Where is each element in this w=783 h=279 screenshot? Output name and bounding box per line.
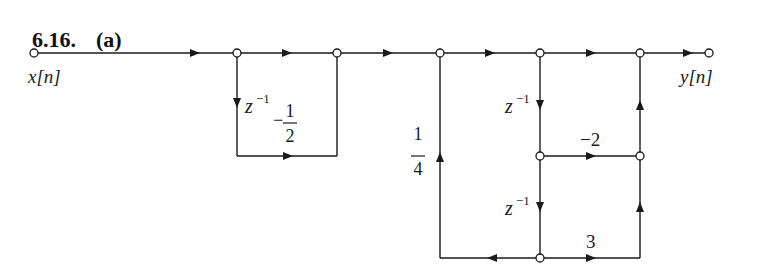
problem-number: 6.16.: [32, 27, 76, 52]
output-node: [705, 49, 713, 57]
node: [436, 49, 444, 57]
arrow-up-icon: [436, 152, 444, 162]
node: [536, 254, 544, 262]
arrow-down-icon: [536, 202, 544, 212]
delay-symbol: z: [504, 197, 513, 219]
arrow-right-icon: [485, 49, 495, 57]
third-delay-label: z −1: [504, 193, 530, 219]
first-loop-gain: − 1 2: [273, 101, 297, 146]
feedback-gain: 1 4: [411, 124, 425, 179]
arrow-up-icon: [636, 100, 644, 110]
input-label: x[n]: [27, 66, 61, 87]
input-node: [30, 49, 38, 57]
arrow-down-icon: [233, 98, 241, 108]
gain-sign: −: [273, 110, 283, 130]
output-label: y[n]: [678, 66, 713, 87]
gain-numerator: 1: [286, 101, 295, 121]
arrow-down-icon: [536, 100, 544, 110]
gain-denominator: 2: [286, 126, 295, 146]
arrow-left-icon: [487, 254, 497, 262]
arrow-right-icon: [586, 152, 596, 160]
delay-exponent: −1: [256, 91, 270, 106]
delay-exponent: −1: [516, 91, 530, 106]
arrow-right-icon: [190, 49, 200, 57]
arrow-right-icon: [586, 49, 596, 57]
node: [233, 49, 241, 57]
delay-symbol: z: [244, 95, 253, 117]
signal-flow-diagram: 6.16. (a): [0, 0, 783, 279]
first-delay-label: z −1: [244, 91, 270, 117]
node: [536, 152, 544, 160]
arrow-right-icon: [683, 49, 693, 57]
arrow-up-icon: [636, 202, 644, 212]
node: [333, 49, 341, 57]
node: [636, 152, 644, 160]
arrow-right-icon: [282, 49, 292, 57]
gain-denominator: 4: [414, 159, 423, 179]
arrow-right-icon: [383, 49, 393, 57]
delay-symbol: z: [504, 95, 513, 117]
arrow-right-icon: [283, 152, 293, 160]
arrow-right-icon: [586, 254, 596, 262]
feedback-path: [440, 53, 540, 258]
delay-exponent: −1: [516, 193, 530, 208]
problem-part: (a): [96, 27, 122, 52]
gain-numerator: 1: [414, 124, 423, 144]
second-delay-label: z −1: [504, 91, 530, 117]
bottom-branch-gain: 3: [586, 231, 596, 252]
mid-branch-gain: −2: [580, 129, 600, 150]
node: [536, 49, 544, 57]
node: [636, 49, 644, 57]
